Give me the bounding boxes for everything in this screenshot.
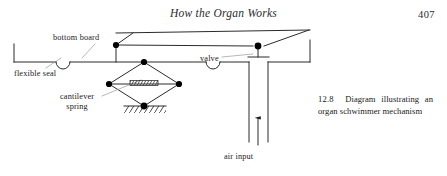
label-bottom-board: bottom board [53,33,99,43]
upper-chamber-rails [116,30,310,46]
lever-arm-left [116,33,133,45]
label-valve: valve [200,54,219,64]
lever-arm-right [264,30,309,46]
label-cantilever-line1: cantilever [60,92,94,102]
node-upper-left [113,42,119,48]
lower-rail [116,45,253,46]
node-board-centre [141,59,147,65]
leader-flexible-seal [46,58,61,68]
cantilever-spring-element [130,81,158,86]
caption-space [334,94,345,104]
node-ground-pivot [141,103,148,110]
book-page: How the Organ Works 407 [0,0,447,176]
figure-caption-number: 12.8 [318,94,334,104]
figure-caption: 12.8 Diagram illustrating an organ schwi… [318,93,433,118]
label-flexible-seal: flexible seal [14,69,56,79]
joint-nodes [106,42,262,110]
organ-schwimmer-diagram [0,0,447,176]
leader-bottom-board [82,44,95,58]
node-diamond-right [176,81,182,87]
node-valve-pivot [255,43,262,50]
label-cantilever-line2: spring [60,102,94,112]
upper-rail [116,30,310,33]
label-air-input: air input [224,152,253,162]
flexible-seal-notch [56,62,70,69]
node-diamond-left [106,81,112,87]
leader-lines [46,44,253,96]
label-cantilever-spring: cantilever spring [60,92,94,113]
